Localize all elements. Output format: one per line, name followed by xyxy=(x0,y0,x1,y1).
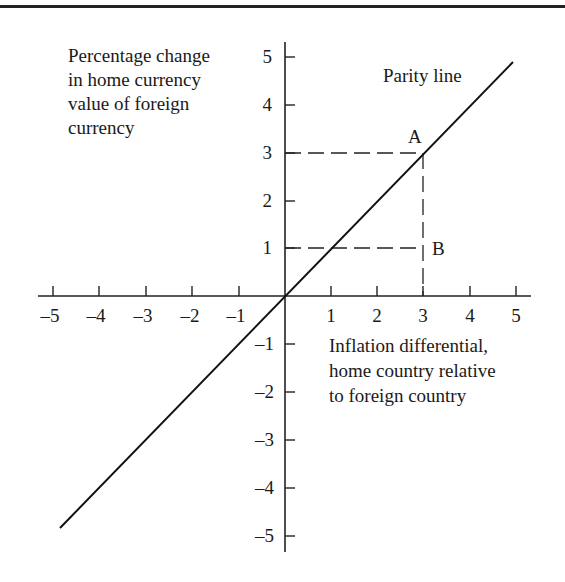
svg-text:2: 2 xyxy=(263,190,273,211)
svg-text:–1: –1 xyxy=(254,333,274,354)
parity-line-label: Parity line xyxy=(383,65,462,86)
svg-text:–2: –2 xyxy=(180,305,200,326)
x-axis-title: Inflation differential, home country rel… xyxy=(329,335,496,406)
svg-text:–4: –4 xyxy=(86,305,107,326)
svg-text:–2: –2 xyxy=(254,381,274,402)
svg-text:2: 2 xyxy=(372,305,382,326)
svg-text:home country relative: home country relative xyxy=(329,360,496,381)
svg-text:4: 4 xyxy=(263,94,273,115)
svg-text:1: 1 xyxy=(263,237,273,258)
parity-chart: –5 –4 –3 –2 –1 1 2 3 4 5 5 4 3 2 1 –1 –2… xyxy=(0,0,565,582)
svg-text:3: 3 xyxy=(263,142,273,163)
svg-text:–3: –3 xyxy=(254,429,274,450)
svg-text:to foreign country: to foreign country xyxy=(329,385,467,406)
svg-text:Inflation differential,: Inflation differential, xyxy=(329,335,488,356)
svg-text:4: 4 xyxy=(465,305,475,326)
svg-text:–4: –4 xyxy=(254,477,275,498)
svg-text:–1: –1 xyxy=(226,305,246,326)
svg-text:–5: –5 xyxy=(40,305,60,326)
svg-text:value of foreign: value of foreign xyxy=(68,93,190,114)
y-axis-title: Percentage change in home currency value… xyxy=(68,45,210,138)
svg-text:5: 5 xyxy=(511,305,521,326)
x-tick-labels: –5 –4 –3 –2 –1 1 2 3 4 5 xyxy=(40,305,521,326)
svg-text:currency: currency xyxy=(68,117,135,138)
svg-text:1: 1 xyxy=(326,305,336,326)
svg-text:–5: –5 xyxy=(254,525,274,546)
point-b-label: B xyxy=(432,238,445,259)
svg-text:5: 5 xyxy=(263,46,273,67)
svg-text:in home currency: in home currency xyxy=(68,69,201,90)
point-a-label: A xyxy=(408,126,422,147)
svg-text:–3: –3 xyxy=(133,305,153,326)
svg-text:Percentage change: Percentage change xyxy=(68,45,210,66)
svg-text:3: 3 xyxy=(418,305,428,326)
